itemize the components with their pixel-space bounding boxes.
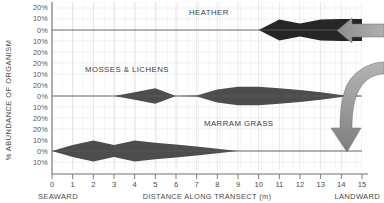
- x-tick-12: 12: [296, 180, 304, 189]
- x-tick-2: 2: [91, 180, 95, 189]
- y-tick-mosses-3: 10%: [33, 103, 48, 112]
- y-tick-heather-4: 20%: [33, 48, 48, 57]
- y-tick-heather-0: 20%: [33, 3, 48, 12]
- x-tick-1: 1: [71, 180, 75, 189]
- kite-diagram: 20% 10% 0% 10% 20% 20% 10% 0% 10% 20% 20…: [0, 0, 384, 203]
- x-tick-11: 11: [275, 180, 283, 189]
- y-tick-mid-extra: 20%: [33, 81, 48, 90]
- x-tick-8: 8: [215, 180, 219, 189]
- seaward-label: SEAWARD: [38, 192, 78, 201]
- series-label-mosses-lichens: MOSSES & LICHENS: [85, 65, 169, 74]
- x-tick-0: 0: [50, 180, 54, 189]
- y-tick-heather-1: 10%: [33, 14, 48, 23]
- x-tick-5: 5: [153, 180, 157, 189]
- y-tick-mosses-0: 20%: [33, 59, 48, 68]
- x-tick-4: 4: [133, 180, 137, 189]
- x-tick-13: 13: [316, 180, 324, 189]
- x-tick-3: 3: [112, 180, 116, 189]
- x-tick-15: 15: [358, 180, 366, 189]
- y-tick-marram-3: 0%: [37, 147, 48, 156]
- y-tick-marram-1: 20%: [33, 125, 48, 134]
- y-tick-mosses-2: 0%: [37, 92, 48, 101]
- x-tick-14: 14: [337, 180, 345, 189]
- series-label-marram-grass: MARRAM GRASS: [204, 119, 274, 128]
- landward-label: LANDWARD: [334, 192, 380, 201]
- x-tick-7: 7: [195, 180, 199, 189]
- x-tick-9: 9: [236, 180, 240, 189]
- y-tick-heather-3: 10%: [33, 37, 48, 46]
- x-tick-6: 6: [174, 180, 178, 189]
- x-tick-10: 10: [254, 180, 262, 189]
- x-axis-title: DISTANCE ALONG TRANSECT (m): [143, 192, 272, 201]
- y-tick-marram-2: 10%: [33, 136, 48, 145]
- y-tick-marram-4: 10%: [33, 158, 48, 167]
- y-axis-title: % ABUNDANCE OF ORGANISM: [4, 40, 13, 161]
- series-label-heather: HEATHER: [189, 8, 229, 17]
- y-tick-mosses-1: 10%: [33, 70, 48, 79]
- kite-diagram-canvas: 20% 10% 0% 10% 20% 20% 10% 0% 10% 20% 20…: [0, 0, 384, 203]
- y-tick-heather-2: 0%: [37, 26, 48, 35]
